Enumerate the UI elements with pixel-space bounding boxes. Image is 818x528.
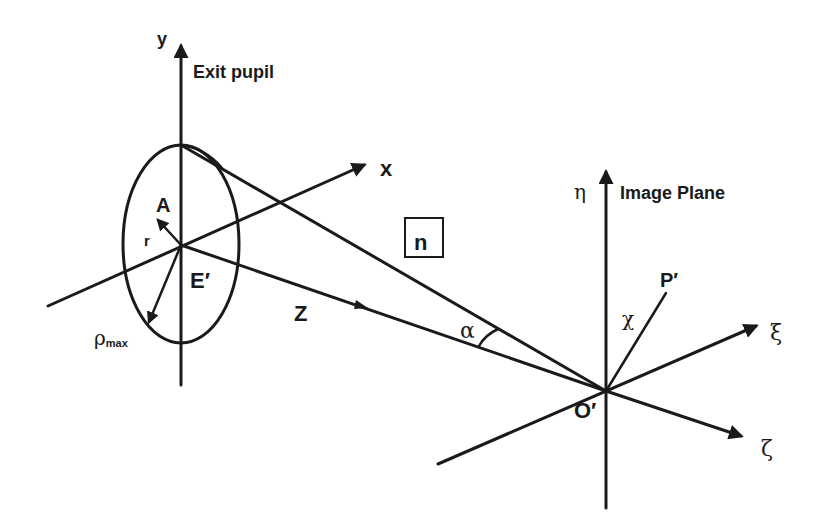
zeta-label: ζ	[761, 436, 773, 461]
o-prime-label: O′	[574, 398, 596, 423]
alpha-angle-arc	[479, 329, 498, 346]
rho-subscript: max	[106, 337, 129, 349]
eta-label: η	[574, 180, 586, 204]
alpha-label: α	[460, 318, 475, 343]
rho-max-label: ρmax	[94, 326, 129, 350]
exit-pupil-label: Exit pupil	[193, 62, 274, 82]
z-axis-arrowhead	[354, 300, 368, 309]
z-axis-label: Z	[294, 301, 307, 326]
n-index-label: n	[414, 230, 427, 255]
radius-r-arrow	[158, 220, 181, 245]
optical-geometry-diagram: y Exit pupil x A r E′ ρmax Z n α η Image…	[0, 0, 818, 528]
rho-max-arrow	[149, 245, 181, 322]
radius-r-label: r	[144, 232, 150, 249]
x-axis-label: x	[380, 156, 393, 181]
zeta-axis	[606, 391, 741, 436]
rho-symbol: ρ	[94, 326, 106, 350]
y-axis-label: y	[157, 29, 167, 49]
chi-line	[606, 293, 666, 391]
chi-label: χ	[622, 307, 634, 331]
image-plane-label: Image Plane	[620, 183, 725, 203]
e-prime-label: E′	[190, 268, 210, 293]
point-a-label: A	[156, 194, 170, 216]
xi-axis	[438, 326, 756, 464]
p-prime-label: P′	[660, 269, 678, 291]
xi-label: ξ	[770, 320, 782, 345]
